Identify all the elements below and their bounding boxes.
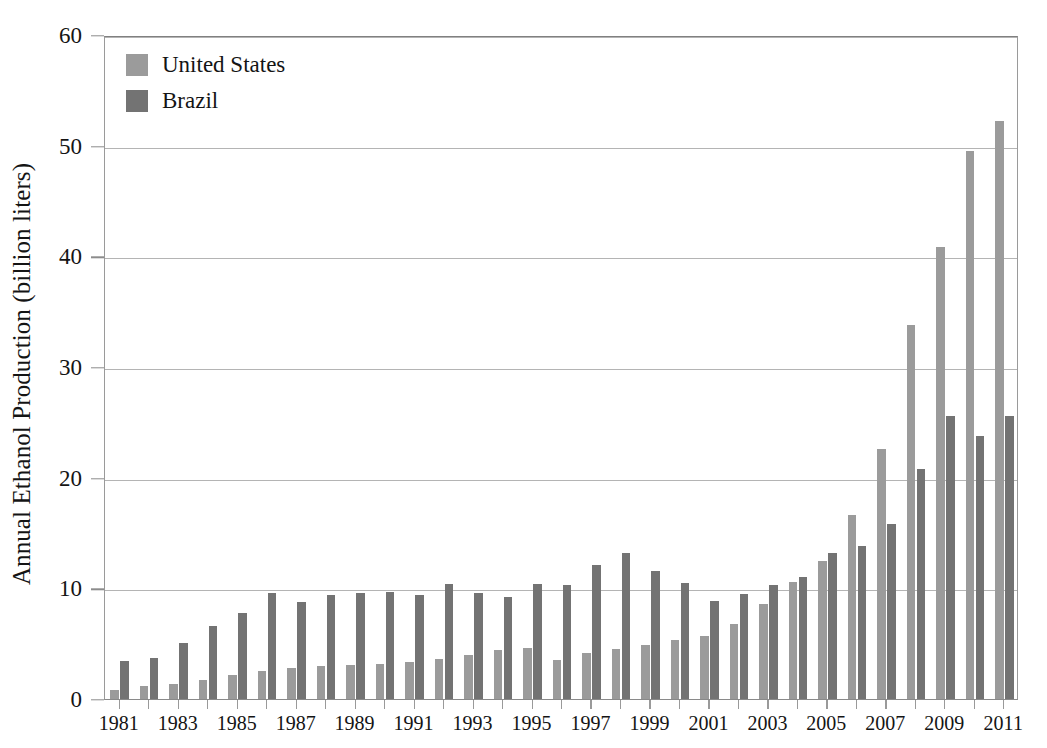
- x-tick-mark-1992: [443, 700, 444, 709]
- bar-brazil-2010: [976, 436, 985, 699]
- legend-item-brazil: Brazil: [126, 88, 285, 114]
- x-tick-mark-2011: [1003, 700, 1004, 709]
- bar-brazil-1994: [504, 597, 513, 699]
- bar-brazil-1984: [209, 626, 218, 699]
- y-tick-mark-60: [91, 35, 104, 36]
- x-tick-label-2001: 2001: [688, 712, 728, 735]
- x-tick-label-2009: 2009: [924, 712, 964, 735]
- x-tick-mark-1986: [266, 700, 267, 709]
- bar-united-states-1988: [317, 666, 326, 699]
- bar-brazil-1992: [445, 584, 454, 699]
- x-tick-mark-1996: [561, 700, 562, 709]
- x-tick-label-1999: 1999: [629, 712, 669, 735]
- x-tick-label-2003: 2003: [747, 712, 787, 735]
- bar-brazil-2001: [710, 601, 719, 699]
- bar-united-states-2003: [759, 604, 768, 699]
- bar-brazil-1989: [356, 593, 365, 699]
- x-tick-mark-1982: [148, 700, 149, 709]
- bar-united-states-2006: [848, 515, 857, 699]
- x-axis: 1981198319851987198919911993199519971999…: [104, 700, 1018, 748]
- x-tick-mark-1999: [649, 700, 650, 709]
- x-tick-label-2005: 2005: [806, 712, 846, 735]
- x-tick-mark-1997: [590, 700, 591, 709]
- bar-brazil-2002: [740, 594, 749, 699]
- x-tick-mark-2009: [944, 700, 945, 709]
- y-tick-mark-30: [91, 367, 104, 368]
- bar-brazil-1999: [651, 571, 660, 699]
- plot-area: [104, 36, 1018, 700]
- bar-brazil-2007: [887, 524, 896, 699]
- x-tick-mark-1998: [620, 700, 621, 709]
- bar-united-states-2001: [700, 636, 709, 699]
- x-tick-mark-1983: [178, 700, 179, 709]
- x-tick-label-1983: 1983: [158, 712, 198, 735]
- bar-united-states-1992: [435, 659, 444, 699]
- x-tick-mark-2005: [826, 700, 827, 709]
- x-tick-mark-1985: [237, 700, 238, 709]
- bar-united-states-2008: [907, 325, 916, 699]
- gridline-60: [105, 37, 1017, 38]
- bar-united-states-1985: [228, 675, 237, 699]
- bar-united-states-1982: [140, 686, 149, 699]
- x-tick-mark-1994: [502, 700, 503, 709]
- bar-united-states-1990: [376, 664, 385, 699]
- x-tick-label-2011: 2011: [984, 712, 1023, 735]
- bar-brazil-1983: [179, 643, 188, 699]
- bar-united-states-1993: [464, 655, 473, 699]
- bar-united-states-1984: [199, 680, 208, 699]
- bar-brazil-1987: [297, 602, 306, 699]
- y-tick-label-40: 40: [59, 244, 82, 270]
- bar-brazil-2000: [681, 583, 690, 699]
- bar-united-states-1989: [346, 665, 355, 699]
- bar-united-states-1991: [405, 662, 414, 699]
- y-tick-label-50: 50: [59, 134, 82, 160]
- bar-brazil-2003: [769, 585, 778, 699]
- y-tick-mark-50: [91, 146, 104, 147]
- y-tick-label-0: 0: [71, 687, 83, 713]
- x-tick-label-1989: 1989: [335, 712, 375, 735]
- bar-united-states-2011: [995, 121, 1004, 699]
- y-tick-mark-20: [91, 478, 104, 479]
- bar-united-states-1995: [523, 648, 532, 699]
- bar-united-states-2002: [730, 624, 739, 699]
- bar-brazil-1981: [120, 661, 129, 699]
- x-tick-mark-1981: [119, 700, 120, 709]
- bar-united-states-2000: [671, 640, 680, 699]
- x-tick-label-1981: 1981: [99, 712, 139, 735]
- y-tick-mark-0: [91, 699, 104, 700]
- x-tick-mark-1989: [355, 700, 356, 709]
- bar-united-states-1998: [612, 649, 621, 699]
- legend-label-united-states: United States: [162, 52, 285, 78]
- bar-united-states-2010: [966, 151, 975, 699]
- bar-brazil-1986: [268, 593, 277, 699]
- bar-united-states-1986: [258, 671, 267, 699]
- bar-united-states-2005: [818, 561, 827, 699]
- x-tick-label-2007: 2007: [865, 712, 905, 735]
- y-tick-label-60: 60: [59, 23, 82, 49]
- x-tick-mark-2004: [797, 700, 798, 709]
- x-tick-mark-1988: [325, 700, 326, 709]
- bar-united-states-1987: [287, 668, 296, 699]
- x-tick-mark-2000: [679, 700, 680, 709]
- bar-brazil-2006: [858, 546, 867, 699]
- bar-brazil-1993: [474, 593, 483, 699]
- bar-brazil-1996: [563, 585, 572, 699]
- x-tick-label-1987: 1987: [276, 712, 316, 735]
- bar-brazil-2004: [799, 577, 808, 699]
- x-tick-label-1995: 1995: [512, 712, 552, 735]
- x-tick-label-1991: 1991: [394, 712, 434, 735]
- x-tick-mark-1990: [384, 700, 385, 709]
- bar-united-states-2009: [936, 247, 945, 699]
- legend-item-united-states: United States: [126, 52, 285, 78]
- legend-swatch-united-states: [126, 54, 148, 76]
- bar-united-states-1983: [169, 684, 178, 699]
- bar-brazil-1982: [150, 658, 159, 699]
- x-tick-mark-2001: [708, 700, 709, 709]
- bar-brazil-1988: [327, 595, 336, 699]
- bar-brazil-1997: [592, 565, 601, 699]
- x-tick-label-1985: 1985: [217, 712, 257, 735]
- x-tick-label-1997: 1997: [570, 712, 610, 735]
- chart-legend: United StatesBrazil: [126, 52, 285, 114]
- bar-brazil-2008: [917, 469, 926, 699]
- bar-brazil-1998: [622, 553, 631, 699]
